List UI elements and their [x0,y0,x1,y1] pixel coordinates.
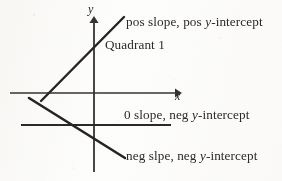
negative-slope-label-prefix: neg slpe, neg [126,148,200,163]
negative-slope-line [29,98,125,158]
zero-slope-label-suffix: -intercept [198,107,250,122]
y-axis-arrowhead-icon [89,16,98,23]
positive-slope-line [41,17,124,101]
zero-slope-label-prefix: 0 slope, neg [124,107,192,122]
positive-slope-label: pos slope, pos y-intercept [126,15,263,28]
positive-slope-label-prefix: pos slope, pos [126,14,205,29]
zero-slope-label: 0 slope, neg y-intercept [124,108,249,121]
positive-slope-label-suffix: -intercept [211,14,263,29]
negative-slope-label-suffix: -intercept [206,148,258,163]
y-axis [89,16,98,172]
quadrant-note: Quadrant 1 [105,38,165,51]
slope-intercept-figure: y x pos slope, pos y-intercept Quadrant … [0,0,282,181]
x-axis [10,89,182,98]
x-axis-label: x [175,90,180,102]
negative-slope-label: neg slpe, neg y-intercept [126,149,257,162]
y-axis-label: y [88,3,93,15]
